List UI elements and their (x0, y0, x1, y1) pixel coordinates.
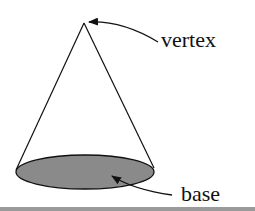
vertex-arrow (89, 22, 158, 42)
cone-base (16, 155, 154, 189)
bottom-border (0, 207, 255, 211)
cone-sides (16, 23, 154, 170)
base-label: base (181, 183, 220, 205)
cone-diagram: vertex base (0, 0, 255, 211)
cone-figure (0, 0, 255, 211)
vertex-label: vertex (161, 29, 216, 51)
